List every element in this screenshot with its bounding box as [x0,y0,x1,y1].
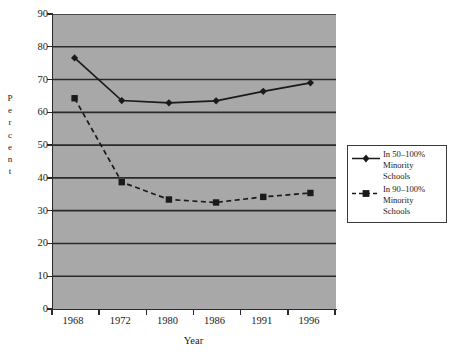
plot-area [52,14,336,309]
legend: In 50–100% Minority Schools In 90–100% M… [347,145,447,223]
series-layer [71,54,314,205]
gridlines [53,14,336,276]
y-tick-label: 50 [22,140,48,151]
y-tick-label: 70 [22,75,48,86]
y-tick-label: 20 [22,238,48,249]
x-tick-mark [146,309,147,315]
y-axis-title-letter: P [3,92,17,104]
data-point [71,95,77,101]
x-tick-mark [240,309,241,315]
series-line-1 [75,58,311,103]
y-axis-title-letter: e [3,104,17,116]
x-axis-title: Year [52,335,335,346]
plot-canvas [53,14,336,309]
x-tick-label: 1986 [192,315,238,327]
y-axis-title: P e r c e n t [3,92,17,177]
x-tick-label: 1968 [50,315,96,327]
legend-sample-dashed-square-icon [351,185,381,196]
data-point [307,190,313,196]
y-tick-label: 60 [22,107,48,118]
y-tick-label: 90 [22,9,48,20]
y-axis-title-letter: t [3,165,17,177]
x-tick-mark [51,309,52,315]
y-tick-label: 40 [22,173,48,184]
x-tick-mark [193,309,194,315]
legend-label: In 90–100% Minority Schools [381,184,425,218]
y-axis-title-letter: e [3,141,17,153]
y-tick-label: 80 [22,42,48,53]
x-tick-label: 1972 [97,315,143,327]
data-point [213,199,219,205]
x-tick-mark [98,309,99,315]
y-tick-label: 0 [22,304,48,315]
y-tick-label: 30 [22,206,48,217]
legend-label: In 50–100% Minority Schools [381,149,425,183]
line-chart: P e r c e n t 90 80 70 60 50 40 30 20 10… [0,0,455,359]
data-point [260,88,267,95]
legend-entry-series-1: In 50–100% Minority Schools [351,149,443,183]
data-point [212,97,219,104]
legend-sample-solid-diamond-icon [351,150,381,161]
data-point [119,179,125,185]
series-line-2 [75,98,311,202]
data-point [165,99,172,106]
legend-entry-series-2: In 90–100% Minority Schools [351,184,443,218]
x-tick-mark [287,309,288,315]
y-axis-title-letter: c [3,129,17,141]
x-tick-label: 1996 [286,315,332,327]
x-tick-label: 1980 [144,315,190,327]
y-axis-title-letter: n [3,153,17,165]
x-axis-ticks: 1968 1972 1980 1986 1991 1996 [52,315,335,333]
y-axis-ticks: 90 80 70 60 50 40 30 20 10 0 [18,0,48,359]
x-tick-mark [334,309,335,315]
data-point [166,196,172,202]
x-tick-label: 1991 [239,315,285,327]
y-tick-label: 10 [22,271,48,282]
data-point [260,194,266,200]
y-axis-title-letter: r [3,116,17,128]
